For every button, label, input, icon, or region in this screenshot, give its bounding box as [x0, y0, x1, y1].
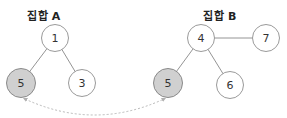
set-a-label: 집합 A — [27, 7, 60, 23]
node-a1: 1 — [41, 24, 69, 52]
node-b4: 4 — [187, 24, 215, 52]
shared-node-link — [25, 99, 164, 115]
node-a3: 3 — [68, 69, 96, 97]
node-a5: 5 — [6, 68, 36, 98]
set-diagram: 집합 A 집합 B 1534756 — [0, 0, 287, 118]
node-b6: 6 — [216, 71, 244, 99]
node-b7: 7 — [252, 24, 280, 52]
node-b5: 5 — [153, 68, 183, 98]
set-b-label: 집합 B — [203, 7, 236, 23]
